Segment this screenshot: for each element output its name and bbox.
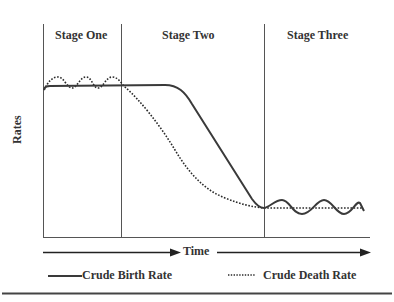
legend-death-label: Crude Death Rate xyxy=(263,268,356,283)
time-arrow-right-head xyxy=(360,249,371,257)
x-axis-label: Time xyxy=(183,244,209,259)
stage-one-label: Stage One xyxy=(55,28,107,43)
legend-birth-label: Crude Birth Rate xyxy=(82,268,172,283)
time-arrow-left-head xyxy=(170,249,181,257)
stage-three-label: Stage Three xyxy=(287,28,348,43)
crude-death-rate-line xyxy=(44,77,362,208)
crude-birth-rate-line xyxy=(44,85,364,214)
y-axis-label: Rates xyxy=(10,115,25,144)
stage-two-label: Stage Two xyxy=(162,28,215,43)
demographic-transition-chart: Stage One Stage Two Stage Three Rates Ti… xyxy=(0,0,394,302)
